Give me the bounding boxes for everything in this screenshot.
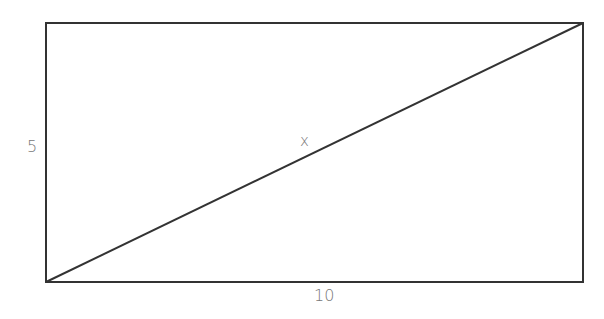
diagonal-line — [46, 23, 583, 282]
rectangle-diagram — [0, 0, 604, 319]
diagonal-label: x — [300, 134, 309, 149]
width-label: 10 — [314, 288, 334, 304]
height-label: 5 — [27, 139, 37, 155]
